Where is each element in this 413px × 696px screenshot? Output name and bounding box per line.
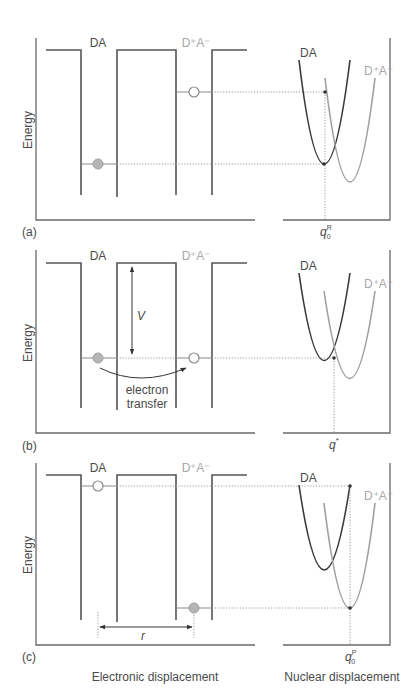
electronic-axes bbox=[36, 38, 255, 220]
acceptor-well-right-wall bbox=[212, 475, 247, 620]
filled-electron-icon bbox=[93, 353, 103, 363]
dpam-parabola bbox=[324, 291, 375, 379]
curve-label-da: DA bbox=[300, 259, 317, 273]
upper-point bbox=[348, 484, 352, 488]
dpam-parabola bbox=[325, 78, 375, 182]
energy-axis-label: Energy bbox=[21, 536, 35, 574]
curve-label-da: DA bbox=[300, 46, 317, 60]
well-label-da: DA bbox=[90, 36, 107, 50]
panel-b: Energy V electron transfer DA D⁺A⁻ DA D⁺… bbox=[21, 249, 393, 453]
tunnel-barrier bbox=[117, 475, 176, 622]
distance-label-r: r bbox=[141, 629, 146, 643]
tunnel-barrier bbox=[117, 50, 176, 197]
donor-well-left-wall bbox=[46, 263, 81, 408]
curve-label-dpam: D⁺A⁻ bbox=[364, 489, 393, 503]
well-label-dpam: D⁺A⁻ bbox=[182, 36, 211, 50]
crossing-point bbox=[332, 356, 336, 360]
da-parabola bbox=[299, 273, 350, 361]
donor-well-left-wall bbox=[46, 475, 81, 620]
panel-a: Energy DA D⁺A⁻ DA D⁺A⁻ qR0 (a) bbox=[21, 36, 393, 240]
well-label-da: DA bbox=[90, 461, 107, 475]
crossing-point bbox=[323, 90, 327, 94]
empty-electron-icon bbox=[93, 481, 103, 491]
energy-axis-label: Energy bbox=[21, 324, 35, 362]
filled-electron-icon bbox=[93, 159, 103, 169]
q-star-label: q* bbox=[329, 436, 339, 452]
empty-electron-icon bbox=[189, 87, 199, 97]
energy-axis-label: Energy bbox=[21, 111, 35, 149]
q0P-label: qP0 bbox=[345, 649, 357, 665]
q0R-label: qR0 bbox=[320, 224, 332, 240]
nuclear-displacement-label: Nuclear displacement bbox=[284, 670, 400, 684]
panel-label-b: (b) bbox=[22, 439, 37, 453]
electron-transfer-arrow bbox=[100, 368, 186, 378]
electron-transfer-label-2: transfer bbox=[127, 397, 168, 411]
electronic-axes bbox=[36, 463, 255, 645]
donor-well-left-wall bbox=[46, 50, 81, 195]
electron-transfer-label-1: electron bbox=[126, 383, 169, 397]
panel-label-a: (a) bbox=[22, 225, 37, 239]
panel-label-c: (c) bbox=[22, 650, 36, 664]
well-label-dpam: D⁺A⁻ bbox=[182, 461, 211, 475]
well-label-dpam: D⁺A⁻ bbox=[182, 249, 211, 263]
minimum-point bbox=[348, 606, 352, 610]
curve-label-dpam: D⁺A⁻ bbox=[364, 64, 393, 78]
well-label-da: DA bbox=[90, 249, 107, 263]
acceptor-well-right-wall bbox=[212, 50, 247, 195]
acceptor-well-right-wall bbox=[212, 263, 247, 408]
dpam-parabola bbox=[324, 503, 375, 608]
da-parabola bbox=[299, 485, 350, 570]
electronic-displacement-label: Electronic displacement bbox=[92, 670, 219, 684]
minimum-point bbox=[322, 162, 326, 166]
barrier-label-v: V bbox=[137, 309, 146, 323]
panel-c: Energy r DA D⁺A⁻ DA D⁺A⁻ qP0 (c) Electro… bbox=[21, 461, 400, 684]
filled-electron-icon bbox=[189, 603, 199, 613]
empty-electron-icon bbox=[189, 353, 199, 363]
marcus-theory-diagram: Energy DA D⁺A⁻ DA D⁺A⁻ qR0 (a) Energy bbox=[0, 0, 413, 696]
curve-label-da: DA bbox=[300, 471, 317, 485]
curve-label-dpam: D⁺A⁻ bbox=[364, 277, 393, 291]
